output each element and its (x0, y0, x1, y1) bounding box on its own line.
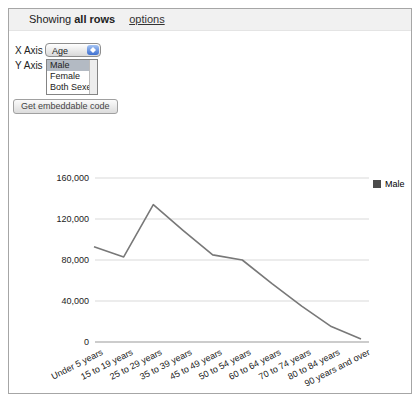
get-embeddable-code-button[interactable]: Get embeddable code (13, 99, 118, 114)
y-axis-tick-label: 80,000 (39, 255, 89, 265)
y-axis-option-both-sexes[interactable]: Both Sexes (47, 82, 90, 93)
y-axis-tick-label: 160,000 (39, 173, 89, 183)
app-window: Showingall rowsoptions X Axis Age Y Axis… (0, 0, 420, 402)
y-axis-tick-label: 0 (39, 337, 89, 347)
chart-legend: Male (373, 173, 405, 191)
filter-status-bar: Showingall rowsoptions (9, 9, 411, 31)
legend-swatch-icon (373, 180, 381, 188)
line-chart: Male 040,00080,000120,000160,000Under 5 … (9, 131, 411, 391)
y-axis-option-male[interactable]: Male (47, 60, 90, 71)
x-axis-selected-value: Age (52, 46, 68, 56)
x-axis-select[interactable]: Age (45, 43, 101, 57)
dropdown-stepper-icon (87, 45, 99, 55)
visualization-panel: Showingall rowsoptions X Axis Age Y Axis… (8, 8, 412, 394)
showing-text: Showing (29, 13, 71, 25)
legend-label: Male (385, 179, 405, 189)
y-axis-option-female[interactable]: Female (47, 71, 90, 82)
showing-rows-text: all rows (74, 13, 115, 25)
listbox-scrollbar[interactable] (89, 60, 97, 94)
y-axis-label: Y Axis (15, 60, 43, 71)
y-axis-tick-label: 120,000 (39, 214, 89, 224)
series-line-male (94, 205, 361, 339)
y-axis-tick-label: 40,000 (39, 296, 89, 306)
y-axis-listbox[interactable]: Male Female Both Sexes (46, 59, 98, 95)
y-axis-options: Male Female Both Sexes (47, 60, 90, 94)
options-link[interactable]: options (129, 13, 164, 25)
x-axis-label: X Axis (15, 45, 43, 56)
